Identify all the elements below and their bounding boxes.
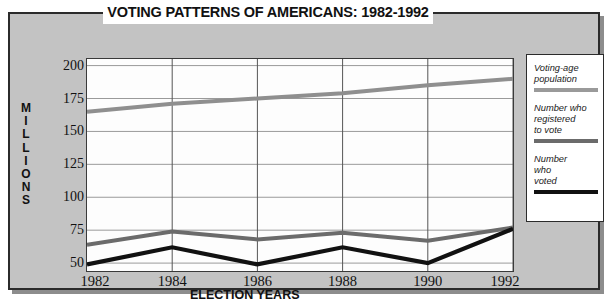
y-axis-tick-label: 75 [38,222,84,238]
y-axis-labels: 5075100125150175200 [34,48,84,284]
legend-swatch-voting-age-population [534,88,598,92]
y-axis-tick-label: 125 [38,156,84,172]
legend-label: Voting-age population [534,63,597,85]
y-axis-title-char: L [18,128,34,141]
legend-item-registered-to-vote: Number who registered to vote [534,103,597,143]
chart-panel: M I L L I O N S 5075100125150175200 1982… [8,12,600,290]
legend-label-line: registered [534,114,597,125]
x-axis-tick-label: 1992 [491,273,520,290]
y-axis-tick-label: 200 [38,58,84,74]
page-title: VOTING PATTERNS OF AMERICANS: 1982-1992 [107,4,428,20]
x-axis-title: ELECTION YEARS [190,288,300,301]
x-axis-tick-label: 1982 [81,273,110,290]
y-axis-tick-label: 50 [38,255,84,271]
legend-item-voting-age-population: Voting-age population [534,63,597,92]
x-axis-labels: 198219841986198819901992 [86,273,514,293]
legend-label-line: population [534,74,597,85]
y-axis-tick-label: 100 [38,189,84,205]
y-axis-title-char: L [18,142,34,155]
plot-svg [87,59,513,271]
legend-swatch-number-who-voted [534,190,598,194]
legend-label-line: to vote [534,125,597,136]
chart-screenshot: M I L L I O N S 5075100125150175200 1982… [0,0,613,301]
legend-label-line: Number [534,154,597,165]
legend-label: Number who voted [534,154,597,187]
x-axis-tick-label: 1990 [413,273,442,290]
x-axis-tick-label: 1984 [158,273,187,290]
x-axis-tick-label: 1988 [328,273,357,290]
chart-title-banner: VOTING PATTERNS OF AMERICANS: 1982-1992 [103,0,433,24]
y-axis-tick-label: 150 [38,123,84,139]
legend-label-line: voted [534,176,597,187]
legend-swatch-registered-to-vote [534,139,598,143]
chart-legend: Voting-age population Number who registe… [526,54,604,222]
y-axis-tick-label: 175 [38,91,84,107]
y-axis-title: M I L L I O N S [18,102,34,208]
legend-label-line: Number who [534,103,597,114]
plot-area [86,58,514,272]
legend-label: Number who registered to vote [534,103,597,136]
legend-item-number-who-voted: Number who voted [534,154,597,194]
legend-label-line: who [534,165,597,176]
y-axis-title-char: S [18,194,34,207]
series-line-voting-age-population [87,79,513,112]
legend-label-line: Voting-age [534,63,597,74]
